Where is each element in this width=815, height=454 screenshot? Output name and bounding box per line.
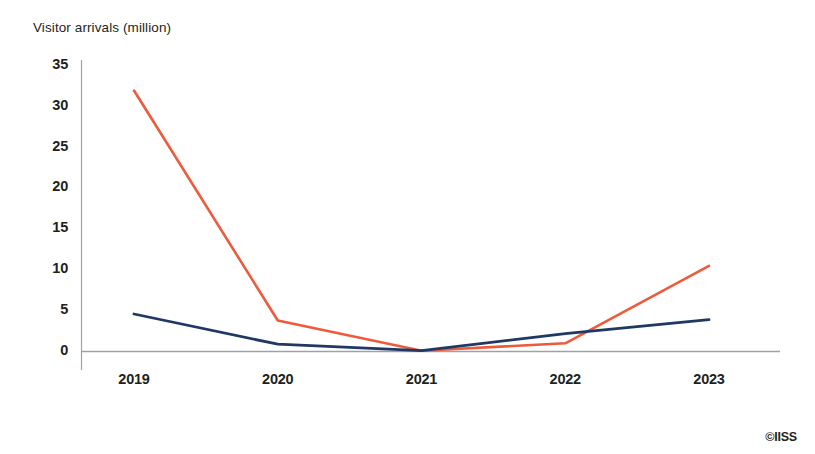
y-tick-label: 15 (30, 219, 68, 235)
x-tick-label: 2022 (525, 371, 605, 387)
data-line-red (134, 91, 709, 351)
y-tick-label: 5 (30, 301, 68, 317)
y-tick-label: 0 (30, 342, 68, 358)
y-tick-label: 10 (30, 260, 68, 276)
data-line-navy (134, 314, 709, 351)
x-tick-label: 2020 (238, 371, 318, 387)
copyright-credit: ©IISS (765, 430, 797, 444)
x-tick-label: 2021 (382, 371, 462, 387)
x-tick-label: 2023 (669, 371, 749, 387)
y-tick-label: 25 (30, 138, 68, 154)
chart-container: Visitor arrivals (million) 0510152025303… (0, 0, 815, 454)
y-tick-label: 35 (30, 56, 68, 72)
y-tick-label: 20 (30, 178, 68, 194)
x-tick-label: 2019 (94, 371, 174, 387)
y-tick-label: 30 (30, 97, 68, 113)
